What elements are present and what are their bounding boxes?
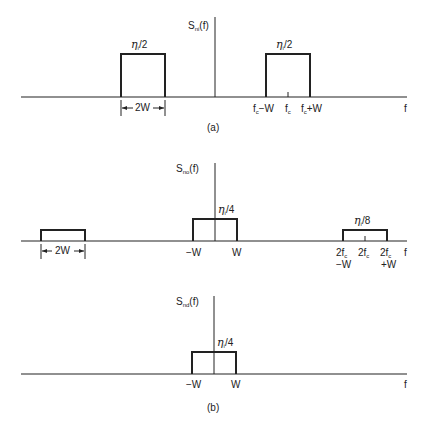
- panel-b-caption: (b): [207, 402, 219, 413]
- panel-b-top-f-label: f: [404, 248, 407, 258]
- panel-a-y-label: Sni(f): [188, 21, 209, 34]
- panel-a-plot: [21, 17, 407, 116]
- panel-a-left-block: [121, 54, 165, 97]
- panel-b-bottom-plus-w: W: [231, 380, 240, 390]
- panel-a-fc-minus-w: fc−W: [253, 104, 274, 117]
- panel-b-top-right-block-label: ηi/8: [354, 216, 370, 229]
- panel-b-bottom-f-label: f: [404, 380, 407, 390]
- panel-b-top-2fc-plus-w-line2: +W: [381, 260, 396, 270]
- panel-b-bottom-block-label: ηi/4: [217, 338, 233, 351]
- panel-b-top-2fc-minus-w-line2: −W: [336, 260, 351, 270]
- panel-a-caption: (a): [207, 122, 219, 133]
- panel-b-top-center-block-label: ηi/4: [218, 205, 234, 218]
- panel-b-top-y-label: Sno(f): [176, 164, 199, 177]
- panel-b-bottom-plot: [21, 296, 407, 374]
- panel-b-bottom-minus-w: −W: [186, 380, 201, 390]
- panel-b-bottom-y-label: Snd(f): [176, 297, 199, 310]
- panel-b-top-2w-label: 2W: [55, 246, 70, 256]
- panel-b-top-left-block: [41, 230, 85, 241]
- panel-a-fc-plus-w: fc+W: [301, 104, 322, 117]
- spectral-density-diagram: [0, 0, 427, 426]
- panel-a-f-label: f: [404, 104, 407, 114]
- panel-b-top-plus-w: W: [232, 248, 241, 258]
- panel-a-left-block-label: ηi/2: [131, 40, 147, 53]
- panel-a-fc: fc: [285, 104, 291, 117]
- panel-b-top-plot: [21, 163, 407, 259]
- panel-b-top-minus-w: −W: [186, 248, 201, 258]
- panel-a-2w-label: 2W: [135, 103, 150, 113]
- panel-a-right-block-label: ηi/2: [276, 40, 292, 53]
- panel-b-top-2fc: 2fc: [358, 248, 369, 261]
- panel-a-right-block: [266, 54, 310, 97]
